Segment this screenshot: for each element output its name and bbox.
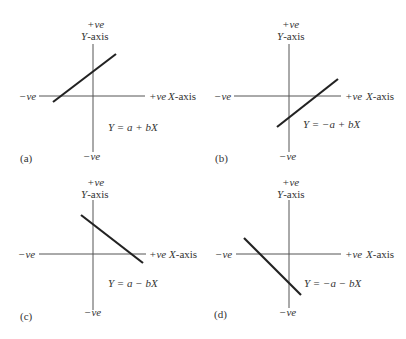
y-positive-label: +ve	[87, 176, 104, 188]
panel-a: +ve Y-axis −ve +ve X-axis Y = a + bX −ve…	[19, 18, 196, 165]
x-axis-title: X-axis	[168, 248, 197, 260]
equation-label: Y = a + bX	[108, 121, 159, 133]
y-positive-label: +ve	[282, 176, 299, 188]
x-negative-label: −ve	[215, 248, 232, 260]
x-axis-title: X-axis	[365, 248, 394, 260]
y-positive-label: +ve	[87, 18, 104, 30]
y-axis-title: Y-axis	[81, 30, 109, 42]
y-negative-label: −ve	[84, 306, 101, 318]
y-axis-title: Y-axis	[277, 188, 305, 200]
x-axis-title: X-axis	[365, 90, 394, 102]
equation-label: Y = −a + bX	[303, 118, 361, 130]
equation-label: Y = a − bX	[108, 277, 159, 289]
y-axis-title: Y-axis	[277, 30, 305, 42]
x-positive-label: +ve	[345, 90, 362, 102]
panel-b: +ve Y-axis −ve +ve X-axis Y = −a + bX −v…	[214, 18, 394, 165]
panel-label: (b)	[215, 152, 228, 165]
x-negative-label: −ve	[18, 248, 35, 260]
x-positive-label: +ve	[149, 248, 166, 260]
x-negative-label: −ve	[214, 90, 231, 102]
y-negative-label: −ve	[83, 150, 100, 162]
regression-line	[244, 238, 301, 295]
x-positive-label: +ve	[149, 90, 166, 102]
regression-line	[53, 54, 116, 102]
y-positive-label: +ve	[282, 18, 299, 30]
y-negative-label: −ve	[279, 150, 296, 162]
equation-label: Y = −a − bX	[304, 277, 362, 289]
regression-line	[81, 215, 143, 263]
x-negative-label: −ve	[19, 90, 36, 102]
panel-c: +ve Y-axis −ve +ve X-axis Y = a − bX −ve…	[18, 176, 197, 323]
regression-sign-diagram: +ve Y-axis −ve +ve X-axis Y = a + bX −ve…	[0, 0, 406, 339]
panel-label: (a)	[20, 152, 33, 165]
panel-label: (d)	[214, 308, 227, 321]
x-positive-label: +ve	[345, 248, 362, 260]
x-axis-title: X-axis	[167, 90, 196, 102]
y-negative-label: −ve	[279, 306, 296, 318]
panel-d: +ve Y-axis −ve +ve X-axis Y = −a − bX −v…	[214, 176, 394, 321]
y-axis-title: Y-axis	[81, 188, 109, 200]
panel-label: (c)	[20, 310, 33, 323]
